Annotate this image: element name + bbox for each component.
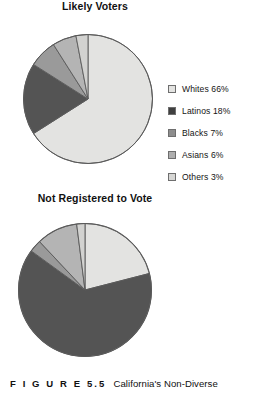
pie-svg-likely-voters	[22, 24, 154, 174]
legend-item-others: Others 3%	[168, 166, 230, 188]
figure-caption: F I G U R E 5.5 California's Non-Diverse	[10, 378, 258, 389]
legend-item-whites: Whites 66%	[168, 78, 230, 100]
legend-swatch-latinos	[168, 107, 176, 115]
legend-swatch-asians	[168, 151, 176, 159]
pie-chart-likely-voters	[22, 24, 154, 174]
legend-swatch-others	[168, 173, 176, 181]
legend-label-latinos: Latinos 18%	[182, 106, 230, 116]
legend-swatch-blacks	[168, 129, 176, 137]
legend-item-latinos: Latinos 18%	[168, 100, 230, 122]
legend-label-whites: Whites 66%	[182, 84, 229, 94]
legend-item-blacks: Blacks 7%	[168, 122, 230, 144]
figure-container: Likely Voters Whites 66% Latinos 18% Bla…	[0, 0, 258, 399]
chart-title-likely-voters: Likely Voters	[0, 0, 190, 12]
pie-chart-not-registered	[17, 222, 153, 358]
chart-block-not-registered: Not Registered to Vote Whites 21% Latino…	[0, 192, 258, 372]
legend-label-asians: Asians 6%	[182, 150, 224, 160]
chart-block-likely-voters: Likely Voters Whites 66% Latinos 18% Bla…	[0, 0, 258, 195]
pie-svg-not-registered	[17, 222, 153, 358]
chart-title-not-registered: Not Registered to Vote	[0, 192, 190, 204]
legend-label-blacks: Blacks 7%	[182, 128, 223, 138]
figure-caption-tag: F I G U R E 5.5	[10, 378, 106, 389]
legend-item-asians: Asians 6%	[168, 144, 230, 166]
legend-label-others: Others 3%	[182, 172, 224, 182]
figure-caption-text: California's Non-Diverse	[113, 378, 217, 389]
legend-swatch-whites	[168, 85, 176, 93]
legend-likely-voters: Whites 66% Latinos 18% Blacks 7% Asians …	[168, 78, 230, 188]
